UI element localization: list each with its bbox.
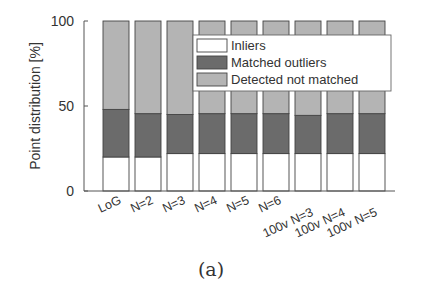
- stacked-bar-chart: 050100Point distribution [%] LoGN=2N=3N=…: [0, 0, 422, 302]
- bar-segment-inliers: [199, 154, 225, 191]
- y-tick-label: 0: [66, 183, 74, 199]
- bar-segment-inliers: [167, 154, 193, 191]
- x-tick-label: N=3: [160, 193, 187, 216]
- y-tick-label: 50: [58, 98, 74, 114]
- bar-segment-inliers: [135, 157, 161, 191]
- bar-segment-inliers: [231, 154, 257, 191]
- legend: InliersMatched outliersDetected not matc…: [193, 35, 391, 91]
- bar-segment-matched-outliers: [231, 114, 257, 154]
- figure-caption: (a): [0, 258, 422, 280]
- bar-segment-matched-outliers: [295, 115, 321, 153]
- y-tick-label: 100: [51, 13, 75, 29]
- bar-n3: [167, 21, 193, 191]
- bar-segment-detected-not-matched: [135, 21, 161, 114]
- bar-segment-matched-outliers: [359, 114, 385, 154]
- bar-segment-detected-not-matched: [167, 21, 193, 115]
- x-tick-label: N=5: [224, 193, 251, 216]
- bar-n2: [135, 21, 161, 191]
- bar-segment-matched-outliers: [199, 114, 225, 154]
- y-axis-label: Point distribution [%]: [27, 42, 43, 170]
- bar-segment-inliers: [295, 154, 321, 191]
- bar-segment-detected-not-matched: [103, 21, 129, 109]
- legend-swatch: [197, 39, 227, 52]
- bar-segment-matched-outliers: [167, 115, 193, 154]
- bar-segment-matched-outliers: [103, 109, 129, 157]
- legend-swatch: [197, 56, 227, 69]
- x-tick-label: N=4: [192, 193, 219, 216]
- bar-segment-inliers: [263, 154, 289, 191]
- bar-segment-inliers: [327, 154, 353, 191]
- bar-segment-matched-outliers: [327, 114, 353, 154]
- x-tick-labels: LoGN=2N=3N=4N=5N=6100v N=3100v N=4100v N…: [96, 193, 379, 240]
- legend-label: Detected not matched: [231, 72, 358, 87]
- bar-segment-matched-outliers: [135, 114, 161, 157]
- bar-log: [103, 21, 129, 191]
- bar-segment-inliers: [103, 157, 129, 191]
- x-tick-label: N=6: [256, 193, 283, 216]
- x-tick-label: LoG: [96, 193, 123, 216]
- bar-segment-matched-outliers: [263, 114, 289, 154]
- legend-label: Matched outliers: [231, 55, 327, 70]
- x-tick-label: N=2: [128, 193, 155, 216]
- bar-segment-inliers: [359, 154, 385, 191]
- legend-swatch: [197, 73, 227, 86]
- legend-label: Inliers: [231, 38, 266, 53]
